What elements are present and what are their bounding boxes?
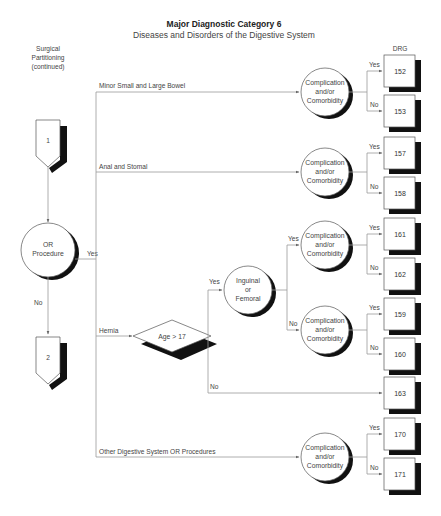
cc-node-3: Complication and/or Comorbidity bbox=[301, 221, 353, 272]
cc-line3: Comorbidity bbox=[307, 250, 344, 258]
partitioning-label-line1: Surgical bbox=[36, 45, 60, 53]
drg-code: 162 bbox=[394, 271, 406, 278]
cc-line1: Complication bbox=[305, 79, 345, 87]
cc-yes-label: Yes bbox=[369, 143, 380, 150]
drg-box-160: 160 bbox=[384, 338, 421, 375]
cc-node-1: Complication and/or Comorbidity bbox=[301, 68, 353, 119]
cc-line1: Complication bbox=[305, 159, 345, 167]
branch-other-digestive-label: Other Digestive System OR Procedures bbox=[99, 448, 216, 456]
drg-code: 158 bbox=[394, 190, 406, 197]
cc-line2: and/or bbox=[315, 453, 335, 460]
or-no-label: No bbox=[34, 299, 43, 306]
inguinal-line2: or bbox=[245, 286, 252, 293]
drg-box-163: 163 bbox=[384, 377, 421, 414]
age-decision-label: Age > 17 bbox=[158, 333, 186, 341]
cc-yes-label: Yes bbox=[369, 61, 380, 68]
cc-line1: Complication bbox=[305, 444, 345, 452]
cc-no-label: No bbox=[370, 101, 379, 108]
partitioning-label-line3: (continued) bbox=[32, 63, 65, 71]
drg-box-153: 153 bbox=[384, 95, 421, 132]
cc-fork-2: Yes No bbox=[349, 143, 382, 193]
or-procedure-node: OR Procedure bbox=[21, 223, 79, 280]
cc-yes-label: Yes bbox=[369, 304, 380, 311]
drg-code: 160 bbox=[394, 351, 406, 358]
cc-no-label: No bbox=[370, 344, 379, 351]
cc-line1: Complication bbox=[305, 317, 345, 325]
cc-node-4: Complication and/or Comorbidity bbox=[301, 306, 353, 357]
age-yes-label: Yes bbox=[209, 278, 220, 285]
cc-line1: Complication bbox=[305, 232, 345, 240]
diagram-title: Major Diagnostic Category 6 bbox=[167, 19, 282, 29]
cc-fork-3: Yes No bbox=[349, 224, 382, 274]
diagram-subtitle: Diseases and Disorders of the Digestive … bbox=[133, 30, 315, 40]
inguinal-femoral-node: Inguinal or Femoral bbox=[224, 266, 276, 317]
drg-box-152: 152 bbox=[384, 55, 421, 92]
connector-2: 2 bbox=[36, 337, 67, 390]
inguinal-no-label: No bbox=[289, 320, 298, 327]
branch-hernia-label: Hernia bbox=[99, 327, 119, 334]
cc-yes-label: Yes bbox=[369, 424, 380, 431]
drg-box-161: 161 bbox=[384, 218, 421, 255]
cc-line3: Comorbidity bbox=[307, 462, 344, 470]
cc-line2: and/or bbox=[315, 168, 335, 175]
branch-anal-stomal-label: Anal and Stomal bbox=[99, 163, 148, 170]
connector-2-label: 2 bbox=[46, 354, 50, 361]
cc-fork-4: Yes No bbox=[349, 304, 382, 354]
drg-box-157: 157 bbox=[384, 137, 421, 174]
cc-fork-1: Yes No bbox=[349, 61, 382, 111]
cc-fork-5: Yes No bbox=[349, 424, 382, 474]
age-decision-node: Age > 17 bbox=[133, 320, 217, 360]
drg-box-171: 171 bbox=[384, 458, 421, 495]
cc-line3: Comorbidity bbox=[307, 335, 344, 343]
drg-code: 161 bbox=[394, 231, 406, 238]
cc-line3: Comorbidity bbox=[307, 177, 344, 185]
drg-code: 171 bbox=[394, 471, 406, 478]
inguinal-line3: Femoral bbox=[236, 295, 261, 302]
drg-box-162: 162 bbox=[384, 258, 421, 295]
cc-no-label: No bbox=[370, 183, 379, 190]
cc-line2: and/or bbox=[315, 241, 335, 248]
cc-yes-label: Yes bbox=[369, 224, 380, 231]
or-procedure-line1: OR bbox=[43, 241, 53, 248]
cc-line2: and/or bbox=[315, 326, 335, 333]
connector-1-label: 1 bbox=[46, 137, 50, 144]
inguinal-yes-label: Yes bbox=[288, 235, 299, 242]
or-yes-label: Yes bbox=[87, 250, 98, 257]
drg-box-158: 158 bbox=[384, 177, 421, 214]
cc-line3: Comorbidity bbox=[307, 97, 344, 105]
drg-code: 153 bbox=[394, 108, 406, 115]
cc-node-5: Complication and/or Comorbidity bbox=[301, 433, 353, 484]
drg-code: 157 bbox=[394, 150, 406, 157]
cc-no-label: No bbox=[370, 464, 379, 471]
drg-box-170: 170 bbox=[384, 418, 421, 455]
or-procedure-line2: Procedure bbox=[32, 250, 64, 257]
inguinal-line1: Inguinal bbox=[236, 277, 260, 285]
partitioning-label-line2: Partitioning bbox=[32, 54, 65, 62]
drg-code: 152 bbox=[394, 68, 406, 75]
drg-column-header: DRG bbox=[393, 45, 408, 52]
cc-line2: and/or bbox=[315, 88, 335, 95]
branch-minor-bowel-label: Minor Small and Large Bowel bbox=[99, 82, 186, 90]
cc-node-2: Complication and/or Comorbidity bbox=[301, 148, 353, 199]
drg-code: 159 bbox=[394, 311, 406, 318]
age-no-label: No bbox=[210, 383, 219, 390]
drg-box-159: 159 bbox=[384, 298, 421, 335]
drg-code: 163 bbox=[394, 390, 406, 397]
connector-1: 1 bbox=[36, 120, 67, 173]
cc-no-label: No bbox=[370, 264, 379, 271]
drg-code: 170 bbox=[394, 431, 406, 438]
drg-flowchart: Major Diagnostic Category 6 Diseases and… bbox=[0, 0, 441, 516]
